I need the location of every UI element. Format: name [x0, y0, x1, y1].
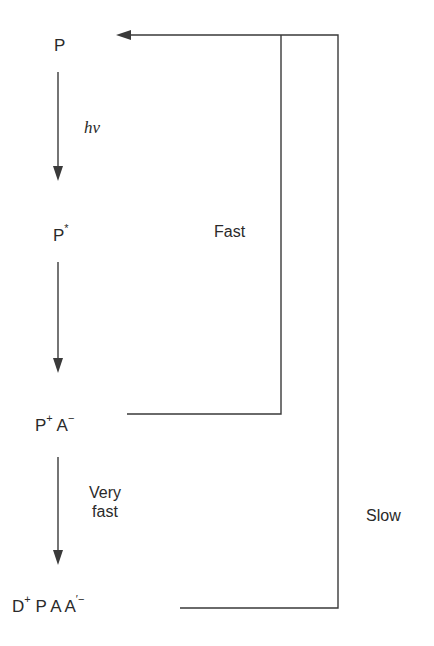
- arrowhead-left-icon: [116, 30, 131, 40]
- state-dpaa-d-sup: +: [24, 593, 30, 605]
- arrow-pstar-to-pa: [53, 262, 63, 373]
- slow-return-path: [116, 30, 338, 608]
- state-pstar-sup: *: [64, 222, 68, 234]
- state-pa-p-sup: +: [46, 412, 52, 424]
- state-pstar-base: P: [53, 226, 64, 245]
- fast-return-path: [127, 35, 281, 414]
- state-p-plus-a-minus: P+ A−: [35, 417, 74, 434]
- label-very: Very: [80, 483, 130, 502]
- state-dpaa-a: A: [50, 597, 60, 616]
- state-dpaa-d: D: [12, 597, 24, 616]
- arrow-pa-to-dpaa: [53, 457, 63, 565]
- label-fast-line2: fast: [80, 502, 130, 521]
- label-slow: Slow: [366, 506, 401, 525]
- state-pa-p: P: [35, 416, 46, 435]
- state-p-star: P*: [53, 227, 69, 244]
- state-dpaa-p: P: [35, 597, 46, 616]
- arrowhead-down-icon: [53, 166, 63, 181]
- state-pa-a-sup: −: [68, 412, 74, 424]
- arrowhead-down-icon: [53, 358, 63, 373]
- state-p: P: [54, 37, 65, 54]
- state-p-label: P: [54, 36, 65, 55]
- state-d-plus-p-a-aprime-minus: D+ P A A′−: [12, 598, 84, 615]
- label-h-nu: hν: [84, 118, 100, 138]
- state-dpaa-aprime-sup: ′−: [76, 593, 85, 605]
- state-pa-a: A: [57, 416, 68, 435]
- connector-lines: [0, 0, 434, 646]
- label-very-fast: Very fast: [80, 483, 130, 521]
- reaction-scheme-diagram: P P* P+ A− D+ P A A′− hν Very fast Fast …: [0, 0, 434, 646]
- arrow-p-to-pstar: [53, 72, 63, 181]
- arrowhead-down-icon: [53, 550, 63, 565]
- state-dpaa-aprime: A: [65, 597, 76, 616]
- label-fast: Fast: [214, 222, 245, 241]
